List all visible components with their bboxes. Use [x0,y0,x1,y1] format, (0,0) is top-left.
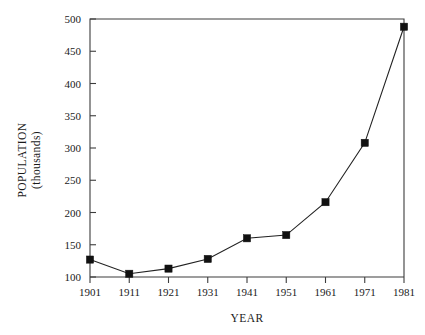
data-point-1921 [165,265,172,272]
y-tick-label-350: 350 [65,110,82,122]
x-tick-label-1941: 1941 [236,286,258,298]
y-axis-tick-labels: 100150200250300350400450500 [65,13,82,283]
y-tick-label-400: 400 [65,78,82,90]
x-tick-label-1921: 1921 [158,286,180,298]
data-point-1971 [361,139,368,146]
y-axis-title-line2: (thousands) [30,131,43,189]
y-tick-label-100: 100 [65,271,82,283]
data-point-1981 [400,23,407,30]
data-point-1901 [86,256,93,263]
x-tick-label-1911: 1911 [118,286,140,298]
x-tick-label-1951: 1951 [275,286,297,298]
x-tick-label-1931: 1931 [197,286,219,298]
x-axis-tick-labels: 190119111921193119411951196119711981 [79,286,415,298]
data-point-1961 [322,199,329,206]
y-tick-label-150: 150 [65,239,82,251]
y-tick-label-300: 300 [65,142,82,154]
y-axis-title-line1: POPULATION [16,122,28,197]
data-point-1941 [243,235,250,242]
y-tick-label-200: 200 [65,207,82,219]
y-tick-label-450: 450 [65,45,82,57]
x-tick-label-1961: 1961 [315,286,337,298]
y-tick-label-500: 500 [65,13,82,25]
population-line-chart: 100150200250300350400450500 190119111921… [0,0,425,335]
data-point-1911 [126,270,133,277]
x-axis-title: YEAR [231,312,264,324]
chart-figure: 100150200250300350400450500 190119111921… [0,0,425,335]
y-tick-label-250: 250 [65,174,82,186]
x-tick-label-1971: 1971 [354,286,376,298]
x-tick-label-1901: 1901 [79,286,101,298]
x-tick-label-1981: 1981 [393,286,415,298]
data-point-1951 [283,231,290,238]
data-point-1931 [204,255,211,262]
